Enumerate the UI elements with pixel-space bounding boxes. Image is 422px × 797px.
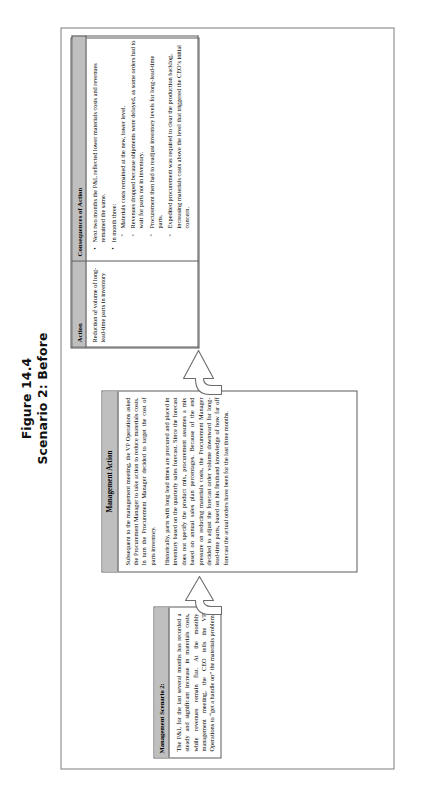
figure-page: Figure 14.4 Scenario 2: Before Managemen… — [0, 0, 422, 797]
figure: Figure 14.4 Scenario 2: Before Managemen… — [18, 27, 404, 769]
table-header-row: Action Consequences of Action — [72, 36, 86, 347]
management-scenario-panel: Management Scenario 2: The P&L for the l… — [153, 606, 221, 758]
management-action-panel: Management Action Subsequent to the mana… — [101, 390, 357, 572]
figure-subtitle: Scenario 2: Before — [34, 27, 50, 769]
list-item: In month three: Materials costs remained… — [109, 40, 191, 248]
cell-action: Reduction of volume of long-lead-time pa… — [86, 261, 198, 347]
management-scenario-text: The P&L for the last several months has … — [174, 613, 216, 751]
figure-frame: Management Scenario 2: The P&L for the l… — [60, 27, 394, 769]
management-scenario-body: The P&L for the last several months has … — [169, 607, 220, 757]
list-item: Next two months the P&L reflected lower … — [90, 40, 107, 248]
management-scenario-header: Management Scenario 2: — [154, 607, 169, 757]
rotated-figure-container: Figure 14.4 Scenario 2: Before Managemen… — [0, 0, 422, 797]
list-item: Procurement then had to readjust invento… — [147, 40, 164, 235]
list-item: Expedited procurement was required to cl… — [165, 40, 190, 235]
management-action-body: Subsequent to the management meeting, th… — [118, 391, 357, 571]
list-item: Materials costs remained at the new, low… — [118, 40, 126, 235]
column-header-action: Action — [72, 261, 86, 347]
consequences-table: Action Consequences of Action Reduction … — [70, 37, 199, 348]
flow-arrow-scenario-to-action — [179, 570, 223, 616]
cell-consequences: Next two months the P&L reflected lower … — [86, 36, 198, 261]
column-header-consequences: Consequences of Action — [72, 36, 86, 261]
management-action-header: Management Action — [102, 391, 118, 571]
management-action-paragraph-1: Subsequent to the management meeting, th… — [123, 397, 156, 565]
consequence-text: In month three: — [109, 203, 116, 242]
list-item: Revenues dropped because shipments were … — [128, 40, 145, 235]
consequences-sublist: Materials costs remained at the new, low… — [118, 40, 190, 242]
table-row: Reduction of volume of long-lead-time pa… — [86, 36, 198, 347]
consequence-text: Next two months the P&L reflected lower … — [90, 63, 105, 242]
figure-title-block: Figure 14.4 Scenario 2: Before — [18, 27, 50, 769]
consequences-list: Next two months the P&L reflected lower … — [90, 40, 190, 256]
figure-number: Figure 14.4 — [18, 27, 34, 769]
flow-arrow-action-to-consequences — [177, 344, 223, 396]
management-action-paragraph-2: Historically, parts with long lead times… — [162, 397, 229, 565]
